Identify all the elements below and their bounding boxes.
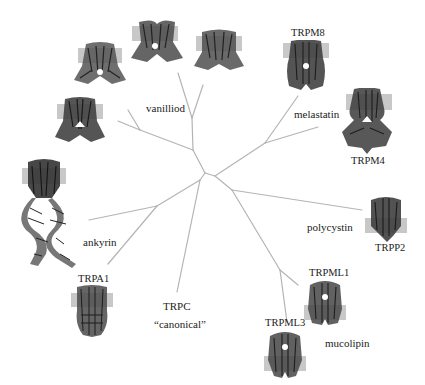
label-canonical: “canonical”	[154, 319, 206, 330]
tree-branch	[280, 270, 298, 285]
tree-branch	[192, 85, 203, 118]
protein-structure-trpml3	[262, 330, 308, 380]
tree-branch	[215, 143, 265, 176]
label-mucolipin: mucolipin	[325, 338, 370, 349]
label-trpm8: TRPM8	[291, 28, 325, 39]
membrane-protein-icon	[363, 196, 409, 242]
protein-structure-trpv-d	[53, 97, 107, 144]
tree-branch	[205, 173, 215, 176]
membrane-protein-icon	[262, 330, 308, 380]
protein-structure-trpa-full	[16, 158, 84, 270]
membrane-protein-icon	[53, 97, 107, 144]
membrane-protein-icon	[69, 285, 115, 337]
tree-branch	[200, 173, 205, 180]
protein-structure-trpv-c	[192, 28, 246, 72]
protein-structure-trpm8	[281, 40, 331, 90]
trp-phylogeny-diagram: vanilliod melastatin polycystin mucolipi…	[0, 0, 425, 385]
protein-structure-trpm4	[340, 88, 394, 154]
label-trpml3: TRPML3	[265, 318, 305, 329]
membrane-protein-icon	[192, 28, 246, 72]
label-melastatin: melastatin	[294, 109, 339, 120]
membrane-protein-icon	[302, 279, 348, 329]
tree-branch	[140, 130, 193, 150]
label-trpml1: TRPML1	[309, 268, 349, 279]
membrane-protein-icon	[340, 88, 394, 154]
label-trpm4: TRPM4	[351, 156, 385, 167]
label-trpa1: TRPA1	[78, 274, 109, 285]
tree-branch	[157, 180, 200, 206]
label-polycystin: polycystin	[307, 222, 353, 233]
tree-branch	[265, 127, 318, 143]
membrane-protein-icon	[72, 42, 128, 86]
label-ankyrin: ankyrin	[83, 237, 117, 248]
label-trpc: TRPC	[163, 301, 191, 312]
tree-branch	[232, 190, 362, 210]
protein-structure-trpv-b	[129, 18, 184, 64]
protein-structure-trpml1	[302, 279, 348, 329]
label-trpp2: TRPP2	[375, 243, 405, 254]
tree-branch	[280, 270, 287, 322]
protein-structure-trpp2	[363, 196, 409, 242]
tree-branch	[192, 118, 193, 150]
tree-branch	[193, 150, 205, 173]
membrane-protein-icon	[281, 40, 331, 90]
tree-branch	[177, 180, 200, 292]
label-vanilloid: vanilliod	[146, 103, 185, 114]
protein-structure-trpa1	[69, 285, 115, 337]
tree-branch	[232, 190, 280, 270]
tree-branch	[215, 176, 232, 190]
protein-structure-trpv-a	[72, 42, 128, 86]
membrane-protein-icon	[129, 18, 184, 64]
ankyrin-repeat-protein-icon	[16, 158, 84, 270]
